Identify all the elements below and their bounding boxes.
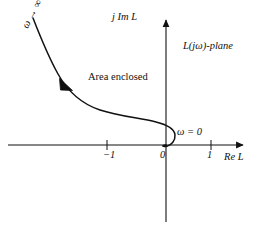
omega-zero-label: ω = 0 (177, 127, 202, 138)
real-axis-label: Re L (224, 152, 244, 163)
real-axis-label-text: Re L (224, 151, 244, 162)
imaginary-axis-label-text: j Im L (112, 11, 137, 22)
tick-label-zero-text: 0 (160, 149, 165, 160)
locus-direction-arrow-icon (60, 79, 73, 91)
tick-label-negative-one-text: −1 (103, 149, 115, 160)
nyquist-plot-figure: j Im L Re L L(jω)-plane Area enclosed ω … (0, 0, 267, 227)
plot-canvas (0, 0, 267, 227)
imaginary-axis-label: j Im L (112, 12, 137, 23)
tick-label-positive-one-text: 1 (207, 149, 212, 160)
tick-label-positive-one: 1 (207, 150, 212, 161)
plane-label: L(jω)-plane (183, 41, 233, 52)
plane-label-text: L(jω)-plane (183, 40, 233, 51)
tick-label-negative-one: −1 (103, 150, 115, 161)
omega-zero-text: ω = 0 (177, 126, 202, 137)
area-enclosed-label: Area enclosed (88, 72, 148, 83)
tick-label-zero: 0 (160, 150, 165, 161)
area-enclosed-text: Area enclosed (88, 71, 148, 82)
